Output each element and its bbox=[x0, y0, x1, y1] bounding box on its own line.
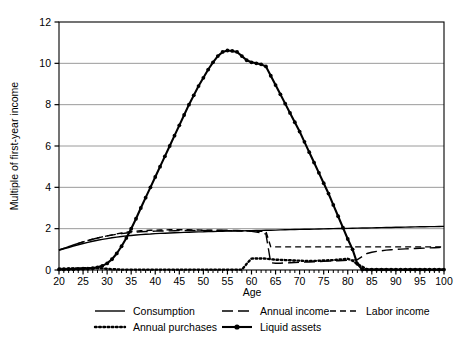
x-tick-label: 25 bbox=[77, 275, 89, 287]
x-tick-label: 80 bbox=[342, 275, 354, 287]
y-tick-label: 6 bbox=[45, 140, 51, 152]
data-point-marker bbox=[245, 58, 249, 62]
data-point-marker bbox=[274, 83, 278, 87]
data-point-marker bbox=[201, 76, 205, 80]
data-point-marker bbox=[91, 266, 95, 270]
data-point-marker bbox=[182, 113, 186, 117]
data-point-marker bbox=[149, 185, 153, 189]
data-point-marker bbox=[216, 54, 220, 58]
data-point-marker bbox=[230, 49, 234, 53]
data-point-marker bbox=[437, 268, 441, 272]
data-point-marker bbox=[211, 60, 215, 64]
x-tick-label: 90 bbox=[390, 275, 402, 287]
data-point-marker bbox=[134, 217, 138, 221]
data-point-marker bbox=[124, 236, 128, 240]
data-point-marker bbox=[110, 257, 114, 261]
data-point-marker bbox=[428, 268, 432, 272]
data-point-marker bbox=[115, 252, 119, 256]
x-tick-label: 20 bbox=[53, 275, 65, 287]
data-point-marker bbox=[288, 111, 292, 115]
x-tick-label: 55 bbox=[222, 275, 234, 287]
legend-label: Labor income bbox=[366, 305, 430, 317]
data-point-marker bbox=[163, 154, 167, 158]
x-tick-label: 85 bbox=[366, 275, 378, 287]
x-tick-label: 70 bbox=[294, 275, 306, 287]
legend-label: Annual purchases bbox=[133, 321, 217, 333]
data-point-marker bbox=[283, 102, 287, 106]
data-point-marker bbox=[235, 50, 239, 54]
data-point-marker bbox=[399, 268, 403, 272]
data-point-marker bbox=[432, 268, 436, 272]
data-point-marker bbox=[250, 60, 254, 64]
data-point-marker bbox=[331, 203, 335, 207]
data-point-marker bbox=[226, 49, 230, 53]
data-point-marker bbox=[192, 93, 196, 97]
data-point-marker bbox=[360, 268, 364, 272]
x-tick-label: 75 bbox=[318, 275, 330, 287]
data-point-marker bbox=[394, 268, 398, 272]
data-point-marker bbox=[278, 92, 282, 96]
data-point-marker bbox=[67, 267, 71, 271]
data-point-marker bbox=[389, 268, 393, 272]
data-point-marker bbox=[322, 181, 326, 185]
data-point-marker bbox=[139, 206, 143, 210]
data-point-marker bbox=[120, 244, 124, 248]
x-tick-label: 50 bbox=[198, 275, 210, 287]
data-point-marker bbox=[197, 84, 201, 88]
data-point-marker bbox=[355, 262, 359, 266]
data-point-marker bbox=[341, 226, 345, 230]
y-tick-label: 10 bbox=[39, 57, 51, 69]
data-point-marker bbox=[351, 247, 355, 251]
data-point-marker bbox=[221, 50, 225, 54]
data-point-marker bbox=[312, 161, 316, 165]
data-point-marker bbox=[293, 120, 297, 124]
y-tick-label: 12 bbox=[39, 16, 51, 28]
data-point-marker bbox=[442, 268, 446, 272]
data-point-marker bbox=[384, 268, 388, 272]
data-point-marker bbox=[408, 268, 412, 272]
data-point-marker bbox=[375, 268, 379, 272]
data-point-marker bbox=[129, 227, 133, 231]
line-chart: 20253035404550556065707580859095100 0246… bbox=[0, 0, 472, 341]
data-point-marker bbox=[96, 265, 100, 269]
data-point-marker bbox=[317, 171, 321, 175]
data-point-marker bbox=[62, 267, 66, 271]
data-point-marker bbox=[264, 65, 268, 69]
data-point-marker bbox=[105, 261, 109, 265]
y-axis-title: Multiple of first-year income bbox=[8, 82, 20, 211]
data-point-marker bbox=[168, 144, 172, 148]
x-tick-label: 45 bbox=[173, 275, 185, 287]
data-point-marker bbox=[259, 62, 263, 66]
x-tick-label: 100 bbox=[435, 275, 453, 287]
data-point-marker bbox=[206, 68, 210, 72]
data-point-marker bbox=[240, 54, 244, 58]
y-tick-label: 0 bbox=[45, 264, 51, 276]
data-point-marker bbox=[72, 267, 76, 271]
data-point-marker bbox=[404, 268, 408, 272]
data-point-marker bbox=[177, 123, 181, 127]
data-point-marker bbox=[187, 103, 191, 107]
data-point-marker bbox=[380, 268, 384, 272]
y-tick-label: 8 bbox=[45, 98, 51, 110]
legend-label: Annual income bbox=[260, 305, 330, 317]
chart-container: 20253035404550556065707580859095100 0246… bbox=[0, 0, 472, 341]
x-tick-label: 65 bbox=[270, 275, 282, 287]
data-point-marker bbox=[413, 268, 417, 272]
data-point-marker bbox=[86, 267, 90, 271]
data-point-marker bbox=[144, 196, 148, 200]
y-tick-label: 4 bbox=[45, 181, 51, 193]
data-point-marker bbox=[173, 134, 177, 138]
data-point-marker bbox=[370, 268, 374, 272]
x-tick-label: 35 bbox=[125, 275, 137, 287]
data-point-marker bbox=[269, 74, 273, 78]
data-point-marker bbox=[418, 268, 422, 272]
x-tick-label: 95 bbox=[414, 275, 426, 287]
legend-label: Consumption bbox=[133, 305, 195, 317]
legend-label: Liquid assets bbox=[260, 321, 321, 333]
x-axis-title: Age bbox=[243, 286, 262, 298]
y-tick-label: 2 bbox=[45, 222, 51, 234]
data-point-marker bbox=[336, 214, 340, 218]
data-point-marker bbox=[57, 267, 61, 271]
x-tick-label: 30 bbox=[101, 275, 113, 287]
data-point-marker bbox=[303, 140, 307, 144]
